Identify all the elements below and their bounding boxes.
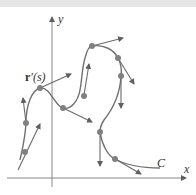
curve-point: [97, 129, 103, 135]
tangent-arrow: [92, 38, 123, 46]
x-axis-label: x: [184, 162, 189, 177]
curve-point: [37, 85, 43, 91]
tangent-arrow: [84, 64, 89, 95]
curve-point: [60, 105, 66, 111]
curve-point: [118, 73, 124, 79]
curve-point: [23, 120, 29, 126]
curve-point: [89, 43, 95, 49]
vector-argument: ′(s): [30, 70, 45, 84]
curve-points: [22, 43, 124, 162]
curve-diagram: [0, 0, 196, 195]
tangent-vector-label: r′(s): [25, 70, 46, 85]
curve-point: [112, 156, 118, 162]
tangent-arrow: [18, 124, 40, 170]
curve-c: [20, 46, 160, 168]
curve-label: C: [157, 156, 165, 171]
curve-point: [81, 93, 87, 99]
y-axis-label: y: [58, 12, 63, 27]
curve-point: [22, 149, 28, 155]
tangent-arrow: [23, 98, 26, 123]
curve-point: [115, 55, 121, 61]
tangent-vectors: [18, 38, 141, 174]
tangent-arrow: [63, 108, 92, 122]
